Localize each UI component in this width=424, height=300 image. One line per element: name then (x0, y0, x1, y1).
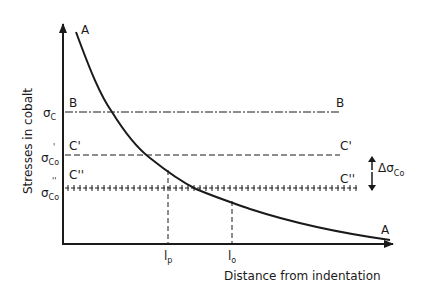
stress-distance-diagram: Stresses in cobalt Distance from indenta… (0, 0, 424, 300)
lp-label: lp (164, 249, 172, 265)
y-axis-label: Stresses in cobalt (21, 88, 35, 194)
x-axis-label: Distance from indentation (224, 269, 381, 283)
sigma-co-prime-label: σCo (41, 151, 59, 167)
sigma-co-prime-mark: ' (53, 143, 55, 152)
label-C-double-prime-left: C'' (69, 168, 84, 182)
lo-label: lo (228, 249, 236, 265)
curve-A-start-label: A (81, 23, 90, 37)
sigma-c-label: σC (43, 106, 57, 122)
label-B-right: B (336, 96, 344, 110)
label-C-prime-right: C' (340, 139, 352, 153)
curve-A-end-label: A (381, 223, 390, 237)
label-B-left: B (69, 96, 77, 110)
delta-sigma-label: ΔσCo (378, 161, 404, 178)
sigma-co-double-prime-mark: '' (52, 177, 56, 186)
label-C-prime-left: C' (69, 139, 81, 153)
curve-A (76, 32, 390, 240)
label-C-double-prime-right: C'' (340, 172, 355, 186)
sigma-co-double-prime-label: σCo (41, 186, 59, 202)
